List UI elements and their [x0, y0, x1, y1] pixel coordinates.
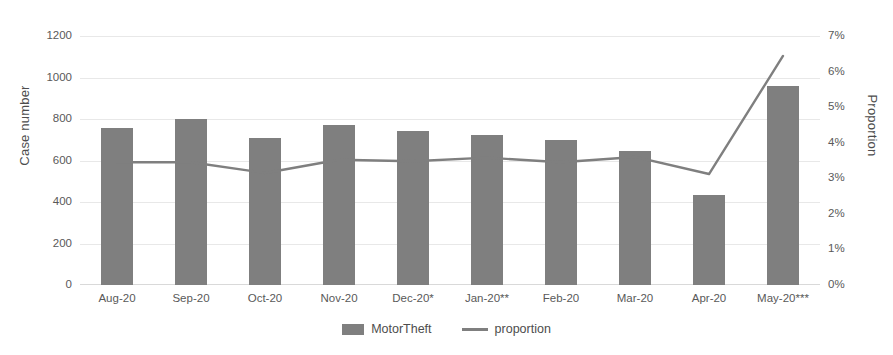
x-axis-label-nov-20: Nov-20 [302, 292, 376, 304]
y-axis-left-title: Case number [17, 66, 32, 186]
legend-label: MotorTheft [371, 322, 431, 336]
y-axis-right-title: Proportion [865, 66, 880, 186]
y-axis-left-tick-0: 0 [26, 279, 72, 291]
y-axis-left-tick-1000: 1000 [26, 72, 72, 84]
proportion-line-path [117, 56, 783, 174]
plot-area [80, 36, 820, 285]
y-axis-left-tick-1200: 1200 [26, 30, 72, 42]
chart-container: Case number Proportion 02004006008001000… [0, 0, 893, 355]
x-axis-label-mar-20: Mar-20 [598, 292, 672, 304]
legend-bar-swatch-icon [342, 324, 364, 335]
y-axis-right-tick-0: 0% [828, 279, 874, 291]
y-axis-left-tick-600: 600 [26, 155, 72, 167]
y-axis-right-tick-7: 7% [828, 30, 874, 42]
legend-label: proportion [495, 322, 551, 336]
y-axis-left-tick-200: 200 [26, 238, 72, 250]
y-axis-right-tick-5: 5% [828, 101, 874, 113]
x-axis-label-aug-20: Aug-20 [80, 292, 154, 304]
line-series-proportion [80, 36, 820, 285]
y-axis-right-tick-4: 4% [828, 137, 874, 149]
x-axis-label-oct-20: Oct-20 [228, 292, 302, 304]
y-axis-right-tick-2: 2% [828, 208, 874, 220]
y-axis-left-tick-800: 800 [26, 113, 72, 125]
legend-item-proportion[interactable]: proportion [462, 322, 551, 336]
legend-line-swatch-icon [462, 328, 488, 331]
x-axis-label-jan-20starstar: Jan-20** [450, 292, 524, 304]
y-axis-right-tick-3: 3% [828, 172, 874, 184]
x-axis-label-sep-20: Sep-20 [154, 292, 228, 304]
x-axis-label-apr-20: Apr-20 [672, 292, 746, 304]
y-axis-left-tick-400: 400 [26, 196, 72, 208]
y-axis-right-tick-6: 6% [828, 66, 874, 78]
x-axis-label-dec-20star: Dec-20* [376, 292, 450, 304]
x-axis-label-feb-20: Feb-20 [524, 292, 598, 304]
y-axis-right-tick-1: 1% [828, 243, 874, 255]
x-axis-label-may-20starstarstar: May-20*** [746, 292, 820, 304]
chart-legend: MotorTheftproportion [0, 322, 893, 336]
legend-item-motortheft[interactable]: MotorTheft [342, 322, 431, 336]
